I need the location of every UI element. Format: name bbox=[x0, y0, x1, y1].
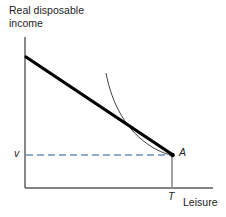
point-A-label: A bbox=[179, 146, 186, 158]
point-A-marker bbox=[170, 153, 174, 157]
x-axis-title: Leisure bbox=[183, 196, 218, 209]
indifference-curve bbox=[106, 73, 174, 156]
x-tick-label-T: T bbox=[168, 190, 174, 202]
budget-constraint-line bbox=[26, 57, 173, 155]
y-axis-title: Real disposable income bbox=[9, 4, 129, 29]
labor-leisure-diagram bbox=[0, 0, 226, 217]
y-tick-label-v: v bbox=[14, 147, 19, 159]
